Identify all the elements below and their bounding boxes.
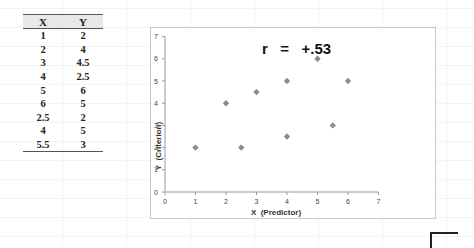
axes: 0123456701234567 xyxy=(154,33,381,205)
x-tick-label: 6 xyxy=(346,198,350,205)
correlation-annotation: r = +.53 xyxy=(262,40,331,57)
x-tick-label: 0 xyxy=(163,198,167,205)
x-tick-label: 4 xyxy=(285,198,289,205)
data-point-marker xyxy=(223,100,229,106)
data-points xyxy=(192,56,351,151)
y-tick-label: 7 xyxy=(154,33,158,40)
y-tick-label: 5 xyxy=(154,78,158,85)
y-tick-label: 0 xyxy=(154,189,158,196)
y-tick-label: 6 xyxy=(154,55,158,62)
y-axis-label: Y (Criterion) xyxy=(154,122,163,171)
x-axis-label: X (Predictor) xyxy=(251,208,302,217)
x-tick-label: 3 xyxy=(255,198,259,205)
data-point-marker xyxy=(253,89,259,95)
x-tick-label: 7 xyxy=(377,198,381,205)
data-point-marker xyxy=(345,78,351,84)
data-point-marker xyxy=(284,133,290,139)
y-tick-label: 4 xyxy=(154,100,158,107)
data-point-marker xyxy=(330,122,336,128)
data-point-marker xyxy=(238,144,244,150)
corner-bracket xyxy=(430,232,458,248)
x-tick-label: 2 xyxy=(224,198,228,205)
x-tick-label: 1 xyxy=(194,198,198,205)
data-point-marker xyxy=(192,144,198,150)
data-point-marker xyxy=(284,78,290,84)
x-tick-label: 5 xyxy=(316,198,320,205)
